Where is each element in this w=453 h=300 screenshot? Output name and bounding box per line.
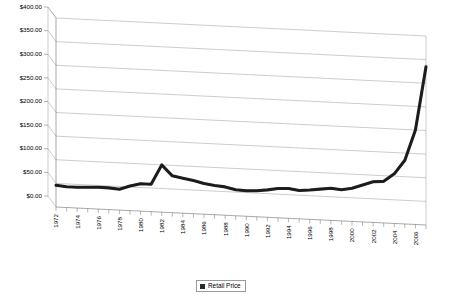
svg-text:1994: 1994	[285, 225, 292, 239]
svg-text:1980: 1980	[137, 218, 144, 232]
svg-text:$350.00: $350.00	[20, 26, 43, 33]
y-axis-labels: $0.00$50.00$100.00$150.00$200.00$250.00$…	[20, 3, 43, 199]
svg-text:2000: 2000	[348, 228, 355, 242]
svg-text:1996: 1996	[306, 226, 313, 240]
svg-text:$100.00: $100.00	[20, 144, 43, 151]
svg-text:1974: 1974	[74, 214, 81, 228]
chart-legend: Retail Price	[196, 280, 246, 292]
legend-label-retail-price: Retail Price	[208, 282, 241, 290]
svg-text:1972: 1972	[52, 213, 59, 227]
svg-text:2006: 2006	[412, 231, 419, 245]
svg-text:$200.00: $200.00	[20, 97, 43, 104]
x-axis-ticks	[56, 207, 426, 229]
svg-text:1982: 1982	[158, 219, 165, 233]
svg-text:$50.00: $50.00	[23, 168, 42, 175]
y-axis-ticks	[44, 7, 48, 196]
svg-text:1992: 1992	[264, 224, 271, 238]
svg-text:1978: 1978	[116, 217, 123, 231]
svg-text:1988: 1988	[222, 222, 229, 236]
svg-text:1984: 1984	[179, 220, 186, 234]
svg-text:$150.00: $150.00	[20, 121, 43, 128]
chart-plot-area: $0.00$50.00$100.00$150.00$200.00$250.00$…	[0, 0, 453, 300]
retail-price-chart: $0.00$50.00$100.00$150.00$200.00$250.00$…	[0, 0, 453, 300]
svg-text:2002: 2002	[370, 229, 377, 243]
svg-text:1986: 1986	[200, 221, 207, 235]
svg-text:$0.00: $0.00	[27, 192, 43, 199]
svg-text:1990: 1990	[243, 223, 250, 237]
svg-text:$250.00: $250.00	[20, 74, 43, 81]
svg-text:$300.00: $300.00	[20, 50, 43, 57]
svg-text:1976: 1976	[95, 215, 102, 229]
svg-text:1998: 1998	[327, 227, 334, 241]
gridlines-group	[48, 7, 426, 225]
svg-text:2004: 2004	[391, 230, 398, 244]
legend-swatch-retail-price	[200, 284, 205, 289]
svg-text:$400.00: $400.00	[20, 3, 43, 10]
data-series-group	[56, 67, 426, 191]
